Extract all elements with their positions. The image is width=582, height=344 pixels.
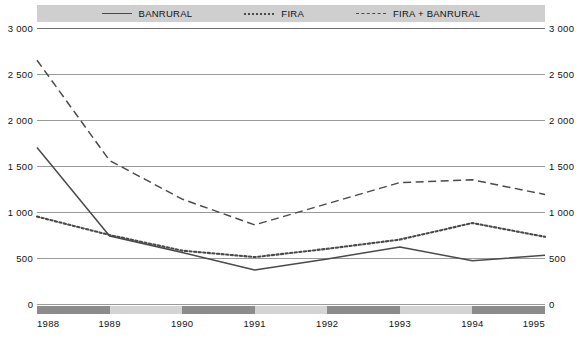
chart-legend: BANRURALFIRAFIRA + BANRURAL xyxy=(37,5,545,22)
y-tick-left-2500: 2 500 xyxy=(8,69,33,80)
legend-swatch-dashed-icon xyxy=(356,9,386,18)
zero-label-right: 0 xyxy=(549,299,554,310)
y-tick-right-3000: 3 000 xyxy=(549,23,574,34)
legend-label: FIRA xyxy=(281,8,304,19)
x-band-segment-1992-1993 xyxy=(327,306,400,314)
y-tick-left-500: 500 xyxy=(16,253,33,264)
series-line-banrural xyxy=(37,148,545,270)
zero-label-left: 0 xyxy=(0,299,33,310)
y-tick-right-1000: 1 000 xyxy=(549,207,574,218)
legend-swatch-solid-icon xyxy=(102,9,132,18)
legend-label: FIRA + BANRURAL xyxy=(393,8,480,19)
x-tick-1991: 1991 xyxy=(244,318,266,329)
y-tick-left-3000: 3 000 xyxy=(8,23,33,34)
legend-item-fira[interactable]: FIRA xyxy=(244,8,304,19)
x-tick-1989: 1989 xyxy=(98,318,120,329)
series-line-fira-banrural xyxy=(37,60,545,225)
series-line-fira xyxy=(37,217,545,257)
x-tick-1988: 1988 xyxy=(37,318,59,329)
x-band-segment-1994-1995 xyxy=(472,306,545,314)
y-axis-labels-right: 3 0002 5002 0001 5001 0005000 xyxy=(549,28,582,304)
series-lines xyxy=(37,28,545,304)
legend-label: BANRURAL xyxy=(139,8,193,19)
legend-item-fira-banrural[interactable]: FIRA + BANRURAL xyxy=(356,8,480,19)
x-band-segment-1988-1989 xyxy=(37,306,110,314)
x-tick-1995: 1995 xyxy=(523,318,545,329)
x-axis-band xyxy=(37,306,545,314)
plot-area xyxy=(37,28,545,304)
legend-item-banrural[interactable]: BANRURAL xyxy=(102,8,193,19)
x-tick-1992: 1992 xyxy=(316,318,338,329)
legend-swatch-dotted-icon xyxy=(244,9,274,18)
y-tick-right-2500: 2 500 xyxy=(549,69,574,80)
x-tick-1990: 1990 xyxy=(171,318,193,329)
line-chart: BANRURALFIRAFIRA + BANRURAL 3 0002 5002 … xyxy=(0,0,582,344)
x-tick-1994: 1994 xyxy=(461,318,483,329)
y-tick-right-1500: 1 500 xyxy=(549,161,574,172)
y-tick-left-2000: 2 000 xyxy=(8,115,33,126)
x-band-segment-1990-1991 xyxy=(182,306,255,314)
y-tick-left-1000: 1 000 xyxy=(8,207,33,218)
y-tick-right-500: 500 xyxy=(549,253,566,264)
x-tick-1993: 1993 xyxy=(389,318,411,329)
x-axis-labels: 19881989199019911992199319941995 xyxy=(0,318,582,334)
gridline-0 xyxy=(37,304,545,305)
y-tick-left-1500: 1 500 xyxy=(8,161,33,172)
y-tick-right-2000: 2 000 xyxy=(549,115,574,126)
y-axis-labels-left: 3 0002 5002 0001 5001 0005000 xyxy=(0,28,33,304)
